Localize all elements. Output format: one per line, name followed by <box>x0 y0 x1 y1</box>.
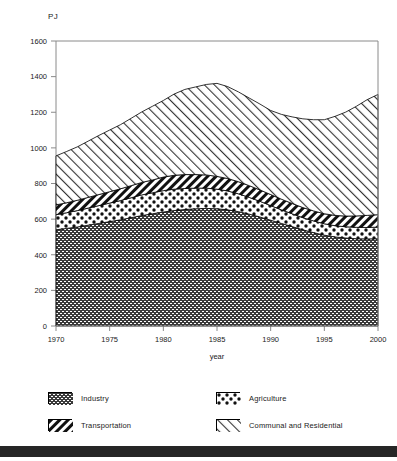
x-tick-label: 2000 <box>370 335 387 344</box>
series-group <box>56 83 378 326</box>
transportation-swatch-icon <box>48 419 72 431</box>
y-tick-label: 600 <box>34 215 47 224</box>
x-tick-label: 1995 <box>316 335 333 344</box>
y-tick-label: 1600 <box>30 37 47 46</box>
legend-item-communal[interactable]: Communal and Residential <box>216 419 343 431</box>
y-tick-label: 0 <box>43 322 47 331</box>
industry-swatch-icon <box>48 392 72 404</box>
y-tick-label: 200 <box>34 286 47 295</box>
x-tick-label: 1985 <box>209 335 226 344</box>
chart-legend: Industry Agriculture Transportation Comm… <box>0 386 397 442</box>
y-tick-label: 400 <box>34 251 47 260</box>
plot-canvas: 1600140012001000800600400200019701975198… <box>0 0 397 386</box>
legend-item-industry[interactable]: Industry <box>48 392 109 404</box>
legend-item-agriculture[interactable]: Agriculture <box>216 392 287 404</box>
legend-label-transportation: Transportation <box>81 421 131 430</box>
legend-label-agriculture: Agriculture <box>249 394 287 403</box>
y-tick-label: 1000 <box>30 144 47 153</box>
legend-item-transportation[interactable]: Transportation <box>48 419 131 431</box>
x-tick-label: 1990 <box>262 335 279 344</box>
stacked-area-chart: PJ 160014001200100080 <box>0 0 397 461</box>
x-tick-label: 1975 <box>101 335 118 344</box>
y-tick-label: 1200 <box>30 108 47 117</box>
communal-swatch-icon <box>216 419 240 431</box>
y-tick-label: 1400 <box>30 72 47 81</box>
x-tick-label: 1980 <box>155 335 172 344</box>
agriculture-swatch-icon <box>216 392 240 404</box>
y-tick-label: 800 <box>34 179 47 188</box>
bottom-bar <box>0 446 397 457</box>
x-tick-label: 1970 <box>48 335 65 344</box>
legend-label-communal: Communal and Residential <box>249 421 343 430</box>
x-axis-title: year <box>210 352 225 361</box>
legend-label-industry: Industry <box>81 394 109 403</box>
